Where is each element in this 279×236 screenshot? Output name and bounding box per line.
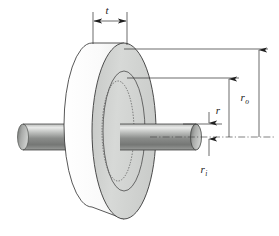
label-thickness-t: t xyxy=(105,4,109,16)
flywheel-shaft-diagram: t ro r ri xyxy=(0,0,279,236)
figure-container: t ro r ri xyxy=(0,0,279,236)
shaft-left-end-cap xyxy=(18,124,29,150)
label-generic-radius: r xyxy=(216,104,221,116)
label-inner-radius: ri xyxy=(201,163,208,178)
dimension-thickness: t xyxy=(93,4,127,45)
label-outer-radius: ro xyxy=(240,91,249,106)
